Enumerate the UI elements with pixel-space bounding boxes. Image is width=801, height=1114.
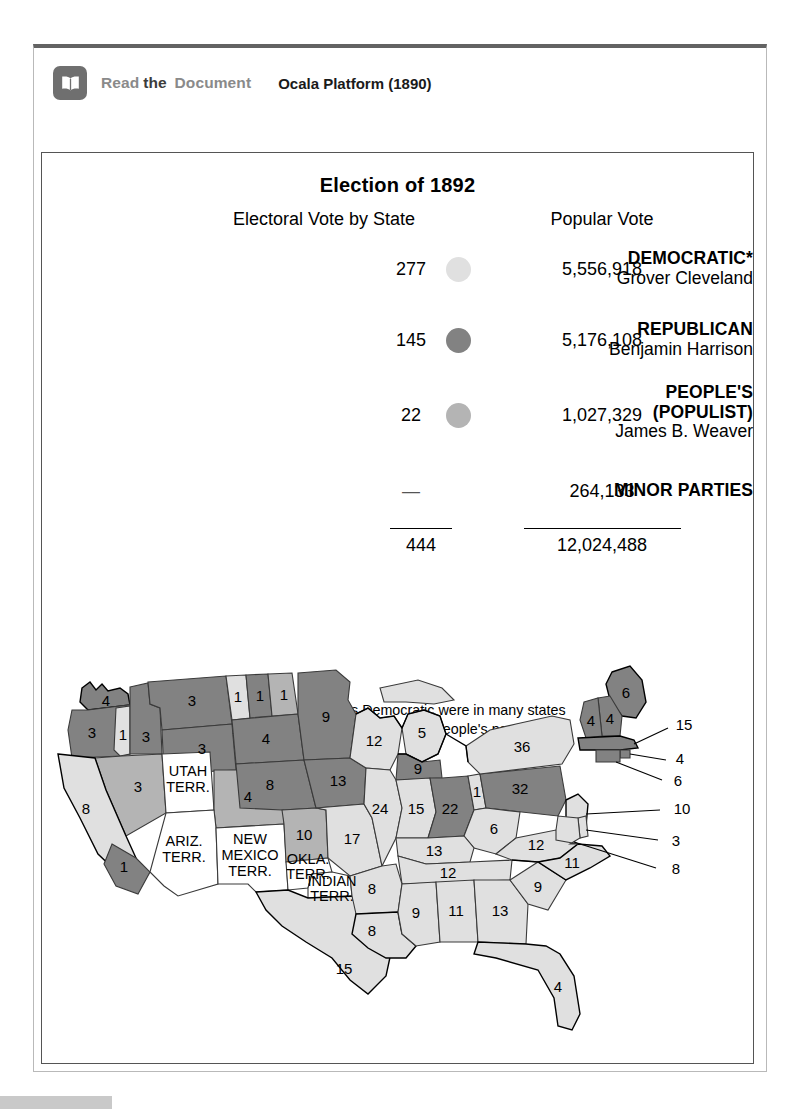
map-label-la: 8 bbox=[368, 922, 376, 939]
map-label-ma: 15 bbox=[676, 716, 693, 733]
svg-text:OKLA.: OKLA. bbox=[287, 851, 330, 867]
leader-line-de bbox=[586, 830, 658, 840]
electoral-vote: 277 bbox=[385, 259, 437, 280]
column-headers: Electoral Vote by State Popular Vote bbox=[42, 209, 753, 239]
svg-text:TERR.: TERR. bbox=[162, 849, 206, 865]
svg-text:MEXICO: MEXICO bbox=[221, 847, 278, 863]
map-label-wy: 3 bbox=[198, 740, 206, 757]
svg-text:TERR.: TERR. bbox=[166, 779, 210, 795]
party-color-swatch-republican bbox=[446, 328, 471, 353]
total-popular: 12,024,488 bbox=[512, 535, 692, 556]
figure-box: Election of 1892 Electoral Vote by State… bbox=[41, 152, 754, 1064]
electoral-map: 4 3 1 3 3 3 3 8 1 4 1 1 1 4 8 10 9 13 17… bbox=[50, 658, 747, 1058]
electoral-vote: — bbox=[385, 481, 437, 502]
map-label-or-split: 1 bbox=[119, 726, 127, 743]
map-label-ca-split: 1 bbox=[120, 858, 128, 875]
popular-vote: 5,556,918 bbox=[512, 259, 692, 280]
map-label-va: 12 bbox=[528, 836, 545, 853]
popular-vote: 5,176,108 bbox=[512, 330, 692, 351]
map-label-nv: 3 bbox=[134, 778, 142, 795]
map-label-mn: 9 bbox=[322, 708, 330, 725]
figure-title: Election of 1892 bbox=[42, 174, 753, 197]
map-label-ks: 10 bbox=[296, 826, 313, 843]
party-color-swatch-democratic bbox=[446, 257, 471, 282]
map-label-nd-c: 1 bbox=[280, 686, 288, 703]
document-label: Document bbox=[175, 74, 252, 92]
page-frame: Read the Document Ocala Platform (1890) … bbox=[33, 44, 767, 1072]
electoral-vote: 22 bbox=[385, 405, 437, 426]
map-label-tx: 15 bbox=[336, 960, 353, 977]
svg-text:NEW: NEW bbox=[233, 831, 267, 847]
map-label-indian-territory: INDIAN TERR. bbox=[307, 873, 356, 904]
map-label-mi-a: 5 bbox=[418, 724, 426, 741]
electoral-vote: 145 bbox=[385, 330, 437, 351]
total-rule-popular bbox=[524, 528, 681, 529]
map-label-nh: 4 bbox=[606, 710, 614, 727]
svg-text:TERR.: TERR. bbox=[228, 863, 272, 879]
map-label-nd-a: 1 bbox=[234, 688, 242, 705]
map-label-nd-b: 1 bbox=[256, 687, 264, 704]
map-label-arizona-territory: ARIZ. TERR. bbox=[162, 833, 206, 865]
map-label-il: 24 bbox=[372, 800, 389, 817]
column-header-electoral: Electoral Vote by State bbox=[209, 209, 439, 230]
map-label-fl: 4 bbox=[554, 978, 562, 995]
map-label-mo: 17 bbox=[344, 830, 361, 847]
map-label-tn: 12 bbox=[440, 864, 457, 881]
map-label-sd: 4 bbox=[262, 730, 270, 747]
svg-text:UTAH: UTAH bbox=[169, 763, 207, 779]
map-label-nc: 11 bbox=[564, 854, 580, 871]
map-label-utah-territory: UTAH TERR. bbox=[166, 763, 210, 795]
map-label-de: 3 bbox=[672, 832, 680, 849]
map-label-or: 3 bbox=[88, 724, 96, 741]
svg-text:TERR.: TERR. bbox=[310, 888, 354, 904]
map-label-ar: 8 bbox=[368, 880, 376, 897]
leader-line-nj bbox=[586, 810, 660, 814]
map-label-ct: 6 bbox=[674, 772, 682, 789]
leader-line-ri bbox=[630, 754, 666, 760]
read-the-document-link[interactable]: Read the Document Ocala Platform (1890) bbox=[34, 48, 766, 118]
map-label-co: 4 bbox=[244, 788, 252, 805]
map-label-mi-b: 9 bbox=[414, 760, 422, 777]
popular-vote: 1,027,329 bbox=[512, 405, 692, 426]
map-label-ne: 8 bbox=[266, 776, 274, 793]
popular-vote: 264,133 bbox=[512, 481, 692, 502]
map-label-mt: 3 bbox=[188, 692, 196, 709]
map-label-ga: 13 bbox=[492, 902, 509, 919]
document-title[interactable]: Ocala Platform (1890) bbox=[278, 75, 431, 92]
book-icon bbox=[53, 66, 87, 100]
map-label-ny: 36 bbox=[514, 738, 531, 755]
map-label-wv: 6 bbox=[490, 820, 498, 837]
map-label-oh-b: 1 bbox=[473, 783, 481, 800]
map-label-ri: 4 bbox=[676, 750, 684, 767]
read-label: Read bbox=[101, 74, 139, 92]
svg-text:INDIAN: INDIAN bbox=[307, 873, 356, 889]
map-label-ky: 13 bbox=[426, 842, 443, 859]
map-label-oh-a: 22 bbox=[442, 800, 459, 817]
party-name-line1: PEOPLE'S bbox=[423, 383, 753, 403]
map-label-wi: 12 bbox=[366, 732, 383, 749]
map-label-me: 6 bbox=[622, 684, 630, 701]
map-label-id: 3 bbox=[142, 728, 150, 745]
svg-text:ARIZ.: ARIZ. bbox=[165, 833, 202, 849]
map-label-wa: 4 bbox=[102, 692, 110, 709]
map-label-al: 11 bbox=[448, 902, 464, 919]
map-label-vt: 4 bbox=[587, 712, 595, 729]
column-header-popular: Popular Vote bbox=[512, 209, 692, 230]
total-rule-electoral bbox=[390, 528, 452, 529]
map-label-ca: 8 bbox=[82, 800, 90, 817]
map-label-in: 15 bbox=[408, 800, 425, 817]
leader-line-ct bbox=[616, 762, 662, 780]
map-label-ia: 13 bbox=[330, 772, 347, 789]
map-label-md: 8 bbox=[672, 860, 680, 877]
leader-line-ma bbox=[634, 728, 668, 744]
bottom-gray-stub bbox=[0, 1096, 112, 1109]
map-label-sc: 9 bbox=[534, 878, 542, 895]
map-label-pa: 32 bbox=[512, 780, 529, 797]
map-label-nj: 10 bbox=[674, 800, 691, 817]
total-electoral: 444 bbox=[385, 535, 457, 556]
the-label: the bbox=[143, 74, 166, 92]
party-color-swatch-populist bbox=[446, 403, 471, 428]
map-label-ms: 9 bbox=[412, 904, 420, 921]
